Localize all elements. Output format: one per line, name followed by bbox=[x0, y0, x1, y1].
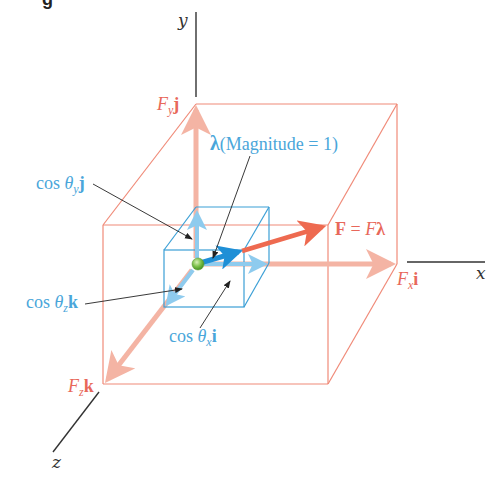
fz-k-label: Fzk bbox=[67, 376, 94, 399]
force-vector-arrow bbox=[242, 227, 322, 251]
y-axis-label: y bbox=[177, 10, 188, 30]
lambda-magnitude-label: λ(Magnitude = 1) bbox=[210, 132, 338, 155]
force-unit-vector-diagram: g y x z bbox=[0, 0, 501, 484]
cos-theta-z-k-label: cos θzk bbox=[26, 292, 78, 315]
cropped-figure-label: g bbox=[42, 0, 53, 9]
origin-point bbox=[192, 258, 204, 270]
fy-j-label: Fyj bbox=[156, 94, 179, 117]
force-equation-label: F = Fλ bbox=[335, 219, 385, 239]
cos-z-component-arrow bbox=[168, 270, 193, 303]
cos-theta-y-j-label: cos θyj bbox=[36, 173, 85, 196]
z-axis-label: z bbox=[51, 452, 62, 472]
x-axis-label: x bbox=[476, 263, 486, 283]
lambda-unit-vector-arrow bbox=[200, 252, 238, 263]
cos-theta-x-i-label: cos θxi bbox=[169, 326, 217, 349]
z-axis-line bbox=[53, 392, 99, 452]
fx-i-label: Fxi bbox=[396, 269, 418, 292]
